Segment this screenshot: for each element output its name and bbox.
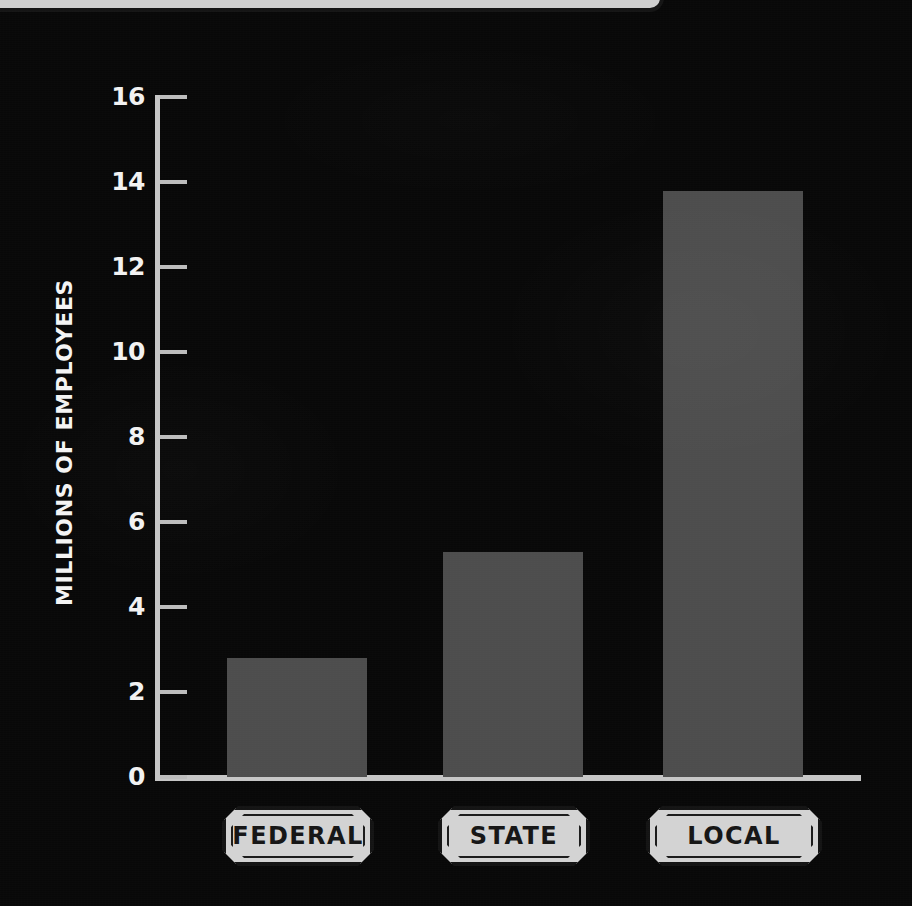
y-axis-title: MILLIONS OF EMPLOYEES bbox=[47, 262, 81, 622]
y-tick-label-12: 12 bbox=[99, 254, 145, 279]
category-badge-label: LOCAL bbox=[687, 822, 780, 850]
y-tick-label-4: 4 bbox=[99, 594, 145, 619]
category-badge-local[interactable]: LOCAL bbox=[646, 806, 822, 866]
category-badge-label: STATE bbox=[470, 822, 558, 850]
category-badge-state[interactable]: STATE bbox=[438, 806, 590, 866]
y-tick-label-14: 14 bbox=[99, 169, 145, 194]
y-tick-16 bbox=[160, 95, 187, 99]
y-tick-8 bbox=[160, 435, 187, 439]
chart-canvas: 0246810121416 MILLIONS OF EMPLOYEES FEDE… bbox=[0, 0, 912, 906]
y-tick-2 bbox=[160, 690, 187, 694]
bar-state bbox=[443, 552, 583, 777]
y-tick-label-6: 6 bbox=[99, 509, 145, 534]
y-tick-label-10: 10 bbox=[99, 339, 145, 364]
bar-local bbox=[663, 191, 803, 778]
y-tick-10 bbox=[160, 350, 187, 354]
y-tick-6 bbox=[160, 520, 187, 524]
y-axis-title-text: MILLIONS OF EMPLOYEES bbox=[52, 279, 77, 606]
y-tick-0 bbox=[160, 775, 187, 779]
y-tick-12 bbox=[160, 265, 187, 269]
y-tick-4 bbox=[160, 605, 187, 609]
y-tick-label-0: 0 bbox=[99, 764, 145, 789]
y-tick-label-8: 8 bbox=[99, 424, 145, 449]
y-tick-14 bbox=[160, 180, 187, 184]
category-badge-label: FEDERAL bbox=[232, 822, 363, 850]
category-badge-federal[interactable]: FEDERAL bbox=[222, 806, 374, 866]
y-axis-tick-labels: 0246810121416 bbox=[95, 0, 145, 906]
bar-federal bbox=[227, 658, 367, 777]
y-tick-label-16: 16 bbox=[99, 84, 145, 109]
y-tick-label-2: 2 bbox=[99, 679, 145, 704]
